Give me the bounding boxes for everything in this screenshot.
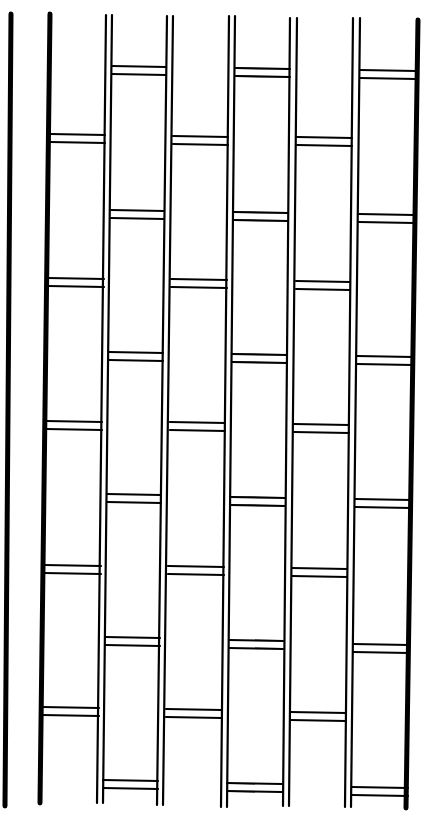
ladder-illusion-drawing	[0, 0, 434, 825]
rung-bottom-line	[296, 289, 350, 290]
rung-top-line	[111, 210, 164, 211]
rung-top-line	[230, 497, 285, 498]
rung-bottom-line	[46, 429, 102, 430]
rung-bottom-line	[236, 76, 290, 77]
background	[0, 0, 434, 825]
rung-top-line	[294, 424, 349, 425]
rung-top-line	[352, 787, 408, 788]
rung-top-line	[112, 66, 166, 67]
rung-bottom-line	[297, 145, 352, 146]
rung-bottom-line	[168, 574, 224, 575]
rung-top-line	[50, 134, 105, 135]
rung-bottom-line	[353, 652, 409, 653]
rung-top-line	[48, 278, 104, 279]
rung-top-line	[234, 212, 288, 213]
rung-top-line	[357, 356, 413, 357]
rung-top-line	[290, 712, 346, 713]
rung-top-line	[105, 637, 160, 638]
rung-top-line	[168, 566, 224, 567]
rung-bottom-line	[107, 502, 161, 503]
rung-top-line	[227, 783, 282, 784]
illusion-figure	[0, 0, 434, 825]
rung-bottom-line	[294, 432, 349, 433]
rung-top-line	[171, 279, 227, 280]
rung-bottom-line	[357, 364, 413, 365]
rung-top-line	[355, 499, 411, 500]
rung-top-line	[173, 136, 228, 137]
rung-top-line	[353, 644, 409, 645]
rung-top-line	[42, 707, 99, 708]
rung-top-line	[236, 68, 290, 69]
rung-top-line	[360, 70, 416, 71]
rung-bottom-line	[173, 144, 228, 145]
rung-bottom-line	[229, 648, 283, 649]
rung-top-line	[292, 568, 347, 569]
rung-top-line	[107, 494, 161, 495]
rung-top-line	[46, 421, 102, 422]
rung-top-line	[103, 780, 158, 781]
rung-bottom-line	[44, 573, 101, 574]
rung-top-line	[229, 640, 283, 641]
rung-bottom-line	[230, 505, 285, 506]
rung-bottom-line	[111, 218, 164, 219]
rung-bottom-line	[355, 507, 411, 508]
rung-bottom-line	[105, 645, 160, 646]
rung-bottom-line	[359, 222, 414, 223]
rung-bottom-line	[290, 720, 346, 721]
rung-bottom-line	[166, 717, 222, 718]
rung-top-line	[109, 352, 163, 353]
rung-bottom-line	[234, 220, 288, 221]
rung-bottom-line	[232, 362, 287, 363]
rung-top-line	[232, 354, 287, 355]
rung-bottom-line	[360, 78, 416, 79]
rung-top-line	[359, 214, 414, 215]
rung-bottom-line	[171, 287, 227, 288]
rung-bottom-line	[109, 360, 163, 361]
rung-bottom-line	[352, 795, 408, 796]
rung-bottom-line	[50, 142, 105, 143]
rung-top-line	[170, 422, 225, 423]
rung-bottom-line	[103, 788, 158, 789]
rung-bottom-line	[42, 715, 99, 716]
rung-bottom-line	[170, 430, 225, 431]
rung-bottom-line	[48, 286, 104, 287]
rung-bottom-line	[292, 576, 347, 577]
rung-bottom-line	[227, 791, 282, 792]
rung-top-line	[44, 565, 101, 566]
rung-top-line	[296, 281, 350, 282]
rung-top-line	[297, 137, 352, 138]
rung-top-line	[166, 709, 222, 710]
rung-bottom-line	[112, 74, 166, 75]
